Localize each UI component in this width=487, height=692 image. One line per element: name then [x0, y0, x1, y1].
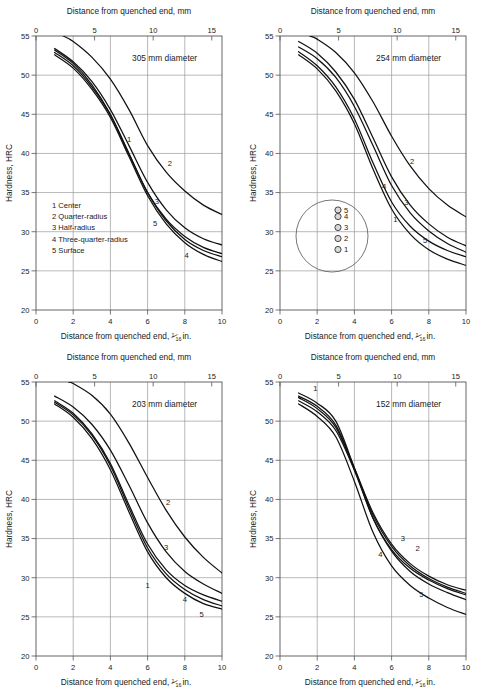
top-axis-tick-label: 0	[34, 372, 38, 381]
legend: 1 Center2 Quarter-radius3 Half-radius4 T…	[52, 201, 128, 255]
bottom-axis-title: Distance from quenched end,116in.	[61, 331, 191, 342]
curves-group	[298, 393, 465, 615]
top-axis-title: Distance from quenched end, mm	[67, 352, 192, 362]
curve-number-label-1: 1	[393, 215, 397, 224]
y-axis-title: Hardness, HRC	[4, 490, 14, 548]
section-point-label-3: 3	[344, 223, 348, 232]
y-axis-tick-label: 25	[21, 267, 29, 276]
y-axis-title: Hardness, HRC	[4, 144, 14, 202]
section-point-label-2: 2	[344, 234, 348, 243]
svg-text:Distance from quenched end,: Distance from quenched end,	[61, 677, 169, 687]
top-axis-tick-label: 10	[149, 372, 157, 381]
curve-1	[298, 52, 465, 257]
bottom-axis-tick-label: 6	[145, 663, 149, 672]
diameter-label: 254 mm diameter	[376, 53, 441, 63]
curve-4	[298, 47, 465, 252]
plot-frame	[280, 36, 466, 310]
chart-panel-bottom-left: Distance from quenched end, mm0510150246…	[0, 346, 244, 692]
y-axis-tick-label: 20	[21, 652, 29, 661]
curve-5	[55, 404, 222, 609]
bottom-axis-tick-label: 6	[389, 663, 393, 672]
curve-number-label-2: 2	[168, 159, 172, 168]
bottom-axis-tick-label: 2	[315, 663, 319, 672]
bottom-axis-title-suffix: in.	[183, 331, 192, 341]
y-axis-tick-label: 55	[265, 378, 273, 387]
y-axis-title: Hardness, HRC	[248, 144, 258, 202]
svg-text:Distance from quenched end,: Distance from quenched end,	[61, 331, 169, 341]
curve-number-label-5: 5	[153, 219, 157, 228]
bottom-axis-tick-label: 0	[34, 317, 38, 326]
curve-number-label-4: 4	[185, 251, 189, 260]
curve-number-label-5: 5	[419, 590, 423, 599]
curve-number-label-4: 4	[382, 182, 386, 191]
y-axis-tick-label: 50	[265, 417, 273, 426]
fraction-denominator: 16	[176, 336, 182, 342]
top-axis-tick-label: 0	[34, 26, 38, 35]
y-axis-tick-label: 55	[21, 378, 29, 387]
fraction-denominator: 16	[419, 336, 425, 342]
bar-section-diagram: 54321	[296, 200, 368, 272]
top-axis-tick-label: 15	[208, 26, 216, 35]
top-axis-tick-label: 15	[451, 26, 459, 35]
top-axis-tick-label: 15	[451, 372, 459, 381]
curve-number-label-1: 1	[145, 581, 149, 590]
y-axis-tick-label: 45	[265, 110, 273, 119]
bottom-axis-tick-label: 10	[218, 317, 226, 326]
curve-number-label-3: 3	[404, 198, 408, 207]
legend-item: 2 Quarter-radius	[52, 212, 107, 221]
diameter-label: 203 mm diameter	[132, 399, 197, 409]
y-axis-tick-label: 55	[21, 32, 29, 41]
y-axis-title: Hardness, HRC	[248, 490, 258, 548]
top-axis-tick-label: 0	[277, 26, 281, 35]
bottom-axis-tick-label: 2	[315, 317, 319, 326]
legend-item: 5 Surface	[52, 246, 85, 255]
y-axis-tick-label: 45	[21, 110, 29, 119]
y-axis-tick-label: 30	[21, 574, 29, 583]
y-axis-tick-label: 35	[265, 534, 273, 543]
y-axis-tick-label: 30	[265, 574, 273, 583]
bottom-axis-tick-label: 2	[71, 663, 75, 672]
bottom-axis-tick-label: 10	[461, 663, 469, 672]
bottom-axis-tick-label: 2	[71, 317, 75, 326]
y-axis-tick-label: 25	[265, 267, 273, 276]
legend-item: 4 Three-quarter-radius	[52, 235, 128, 244]
curve-number-label-3: 3	[164, 543, 168, 552]
chart-panel-bottom-right: Distance from quenched end, mm0510150246…	[244, 346, 487, 692]
bottom-axis-title-suffix: in.	[426, 677, 435, 687]
curve-number-label-3: 3	[400, 534, 404, 543]
curve-4	[298, 401, 465, 600]
section-point-1	[334, 246, 340, 252]
bottom-axis-title: Distance from quenched end,116in.	[61, 677, 191, 688]
bottom-axis-tick-label: 8	[183, 317, 187, 326]
section-point-label-1: 1	[344, 245, 348, 254]
bottom-axis-tick-label: 0	[277, 317, 281, 326]
curve-5	[298, 404, 465, 615]
bottom-axis-tick-label: 0	[277, 663, 281, 672]
section-point-3	[334, 224, 340, 230]
diameter-label: 305 mm diameter	[132, 53, 197, 63]
bottom-axis-tick-label: 4	[352, 317, 356, 326]
bottom-axis-title-suffix: in.	[426, 331, 435, 341]
top-axis-tick-label: 15	[208, 372, 216, 381]
section-point-4	[334, 213, 340, 219]
curve-number-label-5: 5	[199, 610, 203, 619]
curve-3	[298, 398, 465, 594]
top-axis-tick-label: 0	[277, 372, 281, 381]
y-axis-tick-label: 50	[265, 71, 273, 80]
y-axis-tick-label: 50	[21, 417, 29, 426]
top-axis-tick-label: 5	[92, 26, 96, 35]
bottom-axis-title-suffix: in.	[183, 677, 192, 687]
top-axis-tick-label: 5	[336, 372, 340, 381]
fraction-denominator: 16	[176, 682, 182, 688]
y-axis-tick-label: 30	[265, 228, 273, 237]
section-point-2	[334, 235, 340, 241]
section-point-label-4: 4	[344, 212, 348, 221]
curve-number-label-3: 3	[155, 197, 159, 206]
y-axis-tick-label: 25	[21, 613, 29, 622]
y-axis-tick-label: 50	[21, 71, 29, 80]
bottom-axis-tick-label: 4	[352, 663, 356, 672]
y-axis-tick-label: 35	[265, 188, 273, 197]
bar-cross-section-circle	[296, 200, 368, 272]
curve-number-label-1: 1	[313, 384, 317, 393]
bottom-axis-title: Distance from quenched end,116in.	[304, 677, 434, 688]
